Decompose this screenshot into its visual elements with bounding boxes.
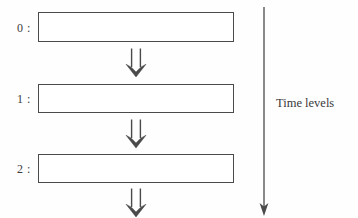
time-level-box-1 [38, 84, 234, 113]
time-level-box-2 [38, 154, 234, 183]
double-down-arrow-icon [125, 119, 147, 149]
time-axis-label: Time levels [276, 97, 334, 110]
double-down-arrow-icon [125, 188, 147, 218]
time-levels-figure: 0 : 1 : 2 : Time leve [0, 0, 358, 218]
time-axis-arrow-icon [257, 7, 271, 217]
time-level-box-0 [38, 12, 234, 42]
time-level-label-1: 1 : [17, 93, 31, 105]
double-down-arrow-icon [125, 48, 147, 78]
time-level-label-0: 0 : [17, 22, 31, 34]
time-level-label-2: 2 : [17, 163, 31, 175]
